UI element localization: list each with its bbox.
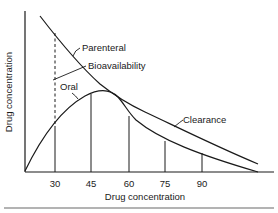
bioavailability-leader [53,66,86,80]
y-axis-label: Drug concentration [4,52,14,132]
x-tick-45: 45 [86,179,97,189]
oral-label: Oral [60,82,78,92]
oral-curve [25,90,258,172]
oral-leader [72,93,78,99]
x-tick-30: 30 [50,179,61,189]
x-tick-90: 90 [197,179,208,189]
parenteral-leader [73,48,80,56]
clearance-leader [174,120,183,127]
pharmacokinetic-diagram [0,0,278,213]
clearance-label: Clearance [183,115,226,125]
x-tick-60: 60 [124,179,135,189]
x-tick-75: 75 [160,179,171,189]
parenteral-label: Parenteral [82,43,126,53]
x-axis-label: Drug concentration [105,192,185,202]
bioavailability-label: Bioavailability [88,61,146,71]
